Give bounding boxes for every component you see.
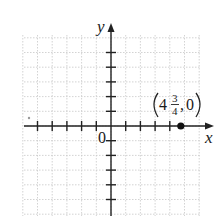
coordinate-plane: y x 0 4 3 4 , 0 [0, 0, 220, 216]
label-whole: 4 [159, 96, 167, 113]
y-axis-label: y [95, 17, 105, 36]
stray-mark [28, 117, 30, 119]
plotted-point [177, 122, 184, 129]
origin-label: 0 [98, 129, 106, 146]
point-label: 4 3 4 , 0 [154, 92, 200, 117]
label-y: 0 [186, 96, 194, 113]
label-denominator: 4 [172, 105, 178, 117]
label-numerator: 3 [172, 92, 178, 104]
x-axis-label: x [204, 128, 213, 147]
label-separator: , [180, 96, 184, 113]
y-axis-arrow-icon [108, 23, 115, 32]
